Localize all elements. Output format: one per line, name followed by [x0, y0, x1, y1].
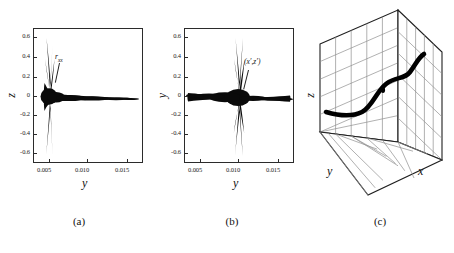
- ytick-a-6: [34, 153, 37, 154]
- ytick-a-5: [34, 134, 37, 135]
- yticklabel-b-2: 0.2: [161, 72, 181, 79]
- xticklabel-b-0: 0.005: [188, 166, 202, 173]
- yticklabel-b-0: 0.6: [161, 32, 181, 39]
- yaxis-label-c: y: [327, 164, 332, 179]
- xtick-a-2: [127, 159, 128, 162]
- xticklabel-b-2: 0.015: [266, 166, 280, 173]
- zaxis-label-c: z: [303, 93, 318, 98]
- caption-a: (a): [0, 215, 158, 227]
- data-cloud-b: [185, 29, 293, 162]
- yticklabel-a-1: 0.4: [10, 52, 30, 59]
- wall-left: [320, 10, 398, 142]
- yticklabel-a-4: -0.2: [8, 110, 30, 117]
- panel-b: 0.6 0.4 0.2 0 -0.2 -0.4 -0.6 0.005 0.010…: [158, 0, 306, 253]
- plot-area-a: 0.6 0.4 0.2 0 -0.2 -0.4 -0.6 0.005 0.010…: [0, 0, 158, 212]
- xtick-a-0: [49, 159, 50, 162]
- yticklabel-b-4: -0.2: [159, 110, 181, 117]
- plot-frame-a: [33, 28, 143, 163]
- plot-area-c: z y x: [306, 0, 454, 212]
- yaxis-label-a: z: [4, 89, 19, 103]
- ytick-b-2: [185, 77, 188, 78]
- ytick-b-3: [185, 96, 188, 97]
- caption-b: (b): [158, 215, 306, 227]
- xticklabel-a-2: 0.015: [115, 166, 129, 173]
- panel-c: z y x (c): [306, 0, 454, 253]
- ytick-b-5: [185, 134, 188, 135]
- xaxis-label-c: x: [418, 164, 423, 179]
- xtick-b-0: [200, 159, 201, 162]
- ytick-a-0: [34, 37, 37, 38]
- figure-three-panel: 0.6 0.4 0.2 0 -0.2 -0.4 -0.6 0.005 0.010…: [0, 0, 454, 253]
- xtick-a-1: [87, 159, 88, 162]
- yticklabel-a-0: 0.6: [10, 32, 30, 39]
- annotation-b: (x′,z′): [244, 57, 260, 66]
- ytick-b-4: [185, 115, 188, 116]
- ytick-a-1: [34, 57, 37, 58]
- ytick-a-4: [34, 115, 37, 116]
- xaxis-label-a: y: [82, 176, 87, 191]
- xaxis-label-b: y: [233, 176, 238, 191]
- data-cloud-a: [34, 29, 142, 162]
- caption-c: (c): [306, 215, 454, 227]
- yticklabel-b-5: -0.4: [159, 129, 181, 136]
- ytick-a-3: [34, 96, 37, 97]
- plot-frame-b: [184, 28, 294, 163]
- xtick-b-2: [278, 159, 279, 162]
- xticklabel-a-0: 0.005: [37, 166, 51, 173]
- yaxis-label-b: y: [155, 89, 170, 103]
- ytick-b-6: [185, 153, 188, 154]
- annotation-b-base: (x′,z′): [244, 57, 260, 66]
- yticklabel-a-6: -0.6: [8, 148, 30, 155]
- xticklabel-b-1: 0.010: [226, 166, 240, 173]
- panel-a: 0.6 0.4 0.2 0 -0.2 -0.4 -0.6 0.005 0.010…: [0, 0, 158, 253]
- xticklabel-a-1: 0.010: [75, 166, 89, 173]
- yticklabel-a-2: 0.2: [10, 72, 30, 79]
- yticklabel-a-5: -0.4: [8, 129, 30, 136]
- yticklabel-b-1: 0.4: [161, 52, 181, 59]
- ytick-a-2: [34, 77, 37, 78]
- box3d-svg: [306, 0, 454, 212]
- ytick-b-0: [185, 37, 188, 38]
- annotation-a-sub: xx: [58, 57, 63, 63]
- ytick-b-1: [185, 57, 188, 58]
- plot-area-b: 0.6 0.4 0.2 0 -0.2 -0.4 -0.6 0.005 0.010…: [158, 0, 306, 212]
- annotation-a: rxx: [55, 52, 63, 63]
- marker-point: [381, 87, 385, 93]
- wall-right: [398, 10, 442, 160]
- xtick-b-1: [238, 159, 239, 162]
- yticklabel-b-6: -0.6: [159, 148, 181, 155]
